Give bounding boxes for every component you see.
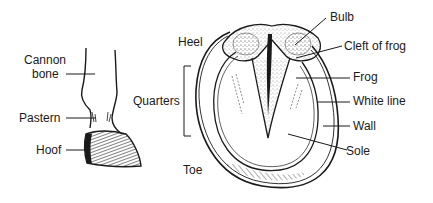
label-heel: Heel — [178, 35, 203, 49]
label-cannon-bone-line1: Cannon — [24, 53, 66, 67]
hoof-anatomy-diagram: Cannon bone Pastern Hoof Heel Quarters — [0, 0, 433, 203]
label-hoof: Hoof — [36, 143, 62, 157]
label-quarters: Quarters — [133, 94, 180, 108]
quarters-bracket — [184, 66, 191, 136]
bulb-left — [233, 33, 259, 55]
label-bulb: Bulb — [330, 10, 354, 24]
label-wall: Wall — [353, 119, 376, 133]
label-frog: Frog — [353, 70, 378, 84]
hoof-side-icon — [85, 131, 141, 167]
label-sole: Sole — [346, 144, 370, 158]
leg-side-view — [81, 48, 122, 134]
label-toe: Toe — [183, 163, 203, 177]
label-white-line: White line — [353, 94, 406, 108]
hoof-sole-view — [196, 25, 338, 188]
label-pastern: Pastern — [19, 111, 60, 125]
label-cleft-of-frog: Cleft of frog — [344, 39, 406, 53]
label-cannon-bone-line2: bone — [32, 67, 59, 81]
bulb-right — [285, 33, 311, 55]
